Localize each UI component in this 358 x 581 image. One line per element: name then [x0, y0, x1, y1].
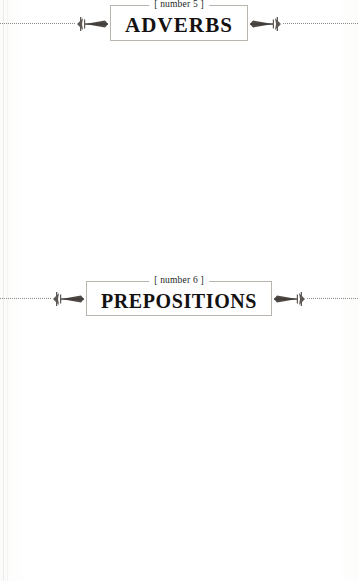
- section-title: PREPOSITIONS: [101, 291, 257, 311]
- entry-content: Prepositions do not have gender, number,: [104, 535, 352, 553]
- entry-row: Definition An adverb is a word that modi…: [22, 126, 352, 210]
- entry-text: Adverbs do not have gender, number, pers…: [104, 223, 352, 259]
- dart-ornament-right: [249, 15, 283, 33]
- entry-label: Grammar: [22, 223, 104, 241]
- entry-label: Grammar: [22, 535, 104, 553]
- example-suffix: her.: [190, 506, 212, 520]
- entry-text: A preposition is a word that shows a rel…: [104, 437, 352, 473]
- entry-label: Definition: [22, 126, 104, 144]
- section-prepositions: [ number 6 ] PREPOSITIONS Overview There…: [0, 275, 358, 552]
- entry-text: Prepositions do not have gender, number,: [104, 535, 352, 553]
- section-number-label: [ number 5 ]: [149, 0, 209, 9]
- dart-ornament-left: [51, 290, 85, 308]
- entry-label: Overview: [22, 59, 104, 77]
- dotted-rule-left: [0, 23, 75, 25]
- entry-content: An adverb is a word that modifies a verb…: [104, 126, 352, 210]
- example-underlined-word: freely: [136, 194, 164, 208]
- section-title-box-prepositions: [ number 6 ] PREPOSITIONS: [86, 281, 272, 316]
- dart-ornament-left: [75, 15, 109, 33]
- dotted-rule-right: [307, 298, 358, 300]
- dotted-rule-right: [283, 23, 358, 25]
- section-title-box-adverbs: [ number 5 ] ADVERBS: [110, 5, 248, 41]
- entry-text: Other than distinguishing adverbs from a…: [104, 59, 352, 113]
- entry-text: An adverb is a word that modifies a verb…: [104, 126, 352, 162]
- entry-example: Example: Sally is a nice person and you …: [104, 174, 352, 210]
- example-suffix: with her.: [164, 194, 211, 208]
- section-header-prepositions: [ number 6 ] PREPOSITIONS: [0, 275, 358, 321]
- entry-label: Overview: [22, 334, 104, 352]
- entry-row: Overview Other than distinguishing adver…: [22, 59, 352, 113]
- entry-content: Other than distinguishing adverbs from a…: [104, 59, 352, 113]
- entry-row: Grammar Adverbs do not have gender, numb…: [22, 223, 352, 259]
- entry-content: Adverbs do not have gender, number, pers…: [104, 223, 352, 259]
- entry-row: Definition A preposition is a word that …: [22, 437, 352, 521]
- entry-row: Grammar Prepositions do not have gender,…: [22, 535, 352, 553]
- entry-example: Example: Sally is a nice person and you …: [104, 486, 352, 522]
- entry-row: Overview There are few problem areas rel…: [22, 334, 352, 424]
- section-header-adverbs: [ number 5 ] ADVERBS: [0, 0, 358, 46]
- section-number-label: [ number 6 ]: [149, 275, 209, 285]
- dotted-rule-left: [0, 298, 51, 300]
- section-rows-prepositions: Overview There are few problem areas rel…: [0, 334, 358, 552]
- entry-content: A preposition is a word that shows a rel…: [104, 437, 352, 521]
- entry-content: There are few problem areas relating to …: [104, 334, 352, 424]
- example-underlined-word: with: [168, 506, 190, 520]
- dart-ornament-right: [273, 290, 307, 308]
- example-prefix: Example: Sally is a nice person and you …: [104, 488, 330, 520]
- entry-label: Definition: [22, 437, 104, 455]
- section-title: ADVERBS: [125, 15, 233, 36]
- section-rows-adverbs: Overview Other than distinguishing adver…: [0, 59, 358, 259]
- section-adverbs: [ number 5 ] ADVERBS Overview Other than…: [0, 0, 358, 259]
- book-page: [ number 5 ] ADVERBS Overview Other than…: [0, 0, 358, 581]
- entry-text: There are few problem areas relating to …: [104, 334, 352, 424]
